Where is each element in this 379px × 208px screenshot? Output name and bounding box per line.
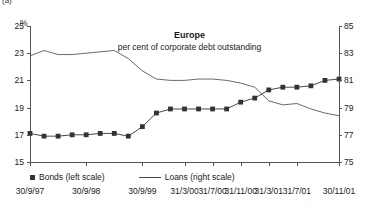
bonds-marker <box>196 107 201 112</box>
x-axis-label: 31/11/00 <box>224 186 256 196</box>
bonds-marker <box>112 131 117 136</box>
bonds-marker <box>182 107 187 112</box>
chart-legend: Bonds (left scale) Loans (right scale) <box>30 172 235 182</box>
right-tick <box>339 135 342 136</box>
legend-label-bonds: Bonds (left scale) <box>39 172 105 182</box>
bonds-marker <box>168 107 173 112</box>
bonds-marker <box>84 132 89 137</box>
bonds-marker-icon <box>30 175 35 180</box>
right-axis-label: 77 <box>344 130 362 140</box>
x-axis-label: 30/9/98 <box>72 186 100 196</box>
x-tick <box>142 163 143 166</box>
loans-line <box>30 50 339 115</box>
right-axis-label: 79 <box>344 103 362 113</box>
series-canvas <box>30 26 340 163</box>
x-tick <box>269 163 270 166</box>
right-tick <box>339 108 342 109</box>
bonds-marker <box>252 96 257 101</box>
x-axis-label: 31/3/00 <box>170 186 198 196</box>
left-tick <box>27 135 30 136</box>
legend-label-loans: Loans (right scale) <box>165 172 235 182</box>
x-axis-label: 30/11/01 <box>323 186 355 196</box>
bonds-marker <box>42 134 47 139</box>
bonds-marker <box>309 83 314 88</box>
left-tick <box>27 26 30 27</box>
bonds-marker <box>323 78 328 83</box>
left-tick <box>27 53 30 54</box>
left-tick <box>27 80 30 81</box>
bonds-marker <box>98 131 103 136</box>
left-axis-label: 19 <box>8 103 24 113</box>
right-axis-label: 75 <box>344 157 362 167</box>
left-axis-label: 25 <box>8 21 24 31</box>
left-axis-label: 23 <box>8 48 24 58</box>
panel-tag: (a) <box>2 0 12 5</box>
bonds-marker <box>70 132 75 137</box>
x-tick <box>30 163 31 166</box>
right-tick <box>339 26 342 27</box>
x-axis-label: 30/9/97 <box>16 186 44 196</box>
x-tick <box>86 163 87 166</box>
x-axis-label: 31/7/01 <box>283 186 311 196</box>
bonds-marker <box>154 111 159 116</box>
bonds-marker <box>280 85 285 90</box>
x-tick <box>241 163 242 166</box>
x-axis-label: 31/3/01 <box>255 186 283 196</box>
bonds-marker <box>266 88 271 93</box>
loans-line-icon <box>139 177 161 178</box>
plot-area <box>30 26 340 163</box>
right-tick <box>339 53 342 54</box>
x-axis-label: 30/9/99 <box>128 186 156 196</box>
left-axis-label: 21 <box>8 75 24 85</box>
bonds-marker <box>56 134 61 139</box>
bonds-marker <box>210 107 215 112</box>
bonds-marker <box>140 124 145 129</box>
bonds-marker <box>224 107 229 112</box>
left-tick <box>27 108 30 109</box>
x-tick <box>185 163 186 166</box>
x-tick <box>297 163 298 166</box>
bonds-marker <box>126 134 131 139</box>
right-axis-label: 81 <box>344 75 362 85</box>
x-tick <box>213 163 214 166</box>
right-axis-label: 85 <box>344 21 362 31</box>
right-tick <box>339 80 342 81</box>
left-axis-label: 17 <box>8 130 24 140</box>
right-axis-label: 83 <box>344 48 362 58</box>
x-axis-label: 31/7/00 <box>198 186 226 196</box>
x-tick <box>339 163 340 166</box>
bonds-marker <box>238 100 243 105</box>
left-axis-label: 15 <box>8 157 24 167</box>
bonds-marker <box>294 85 299 90</box>
